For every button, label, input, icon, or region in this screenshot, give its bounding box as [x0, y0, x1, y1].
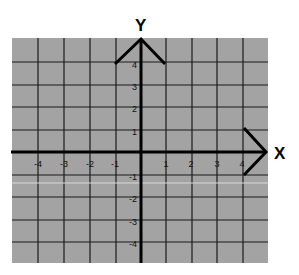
- y-tick: 1: [132, 127, 137, 137]
- y-tick: 4: [132, 60, 137, 70]
- x-tick: -2: [86, 159, 94, 169]
- x-tick: -1: [111, 159, 119, 169]
- y-tick: -4: [129, 239, 137, 249]
- x-tick: 2: [188, 159, 193, 169]
- y-tick: -2: [129, 194, 137, 204]
- y-tick: -3: [129, 217, 137, 227]
- x-tick: -4: [34, 159, 42, 169]
- y-tick: -1: [129, 172, 137, 182]
- x-tick: 4: [239, 159, 244, 169]
- x-tick: 1: [163, 159, 168, 169]
- x-tick: 3: [214, 159, 219, 169]
- y-axis-label: Y: [135, 16, 147, 35]
- x-axis-label: X: [274, 144, 286, 163]
- y-tick: 3: [132, 82, 137, 92]
- x-tick: -3: [60, 159, 68, 169]
- y-tick: 2: [132, 104, 137, 114]
- coordinate-plane: X Y -4 -3 -2 -1 1 2 3 4 4 3 2 1 -1 -2 -3…: [0, 0, 299, 275]
